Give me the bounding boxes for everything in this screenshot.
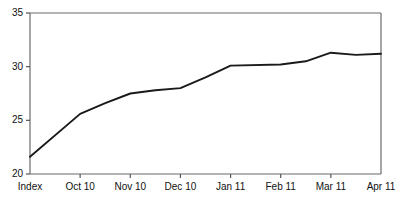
x-axis-tick-label: Apr 11: [351, 182, 403, 192]
y-axis-tick-label: 20: [1, 169, 23, 179]
chart-plot-area: [0, 0, 403, 205]
y-axis-tick-label: 35: [1, 8, 23, 18]
data-series-line: [30, 53, 381, 157]
line-chart: 35302520 IndexOct 10Nov 10Dec 10Jan 11Fe…: [0, 0, 403, 205]
x-axis-ticks: [80, 174, 331, 178]
y-axis-tick-label: 25: [1, 115, 23, 125]
y-axis-tick-label: 30: [1, 62, 23, 72]
plot-frame: [30, 13, 381, 174]
